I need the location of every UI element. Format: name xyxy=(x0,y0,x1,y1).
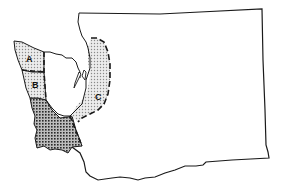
label-b: B xyxy=(32,80,39,90)
island xyxy=(74,72,81,88)
label-a: A xyxy=(26,54,33,64)
island xyxy=(82,70,86,80)
strait-coast xyxy=(44,52,80,78)
washington-map: A B C xyxy=(0,0,288,192)
label-c: C xyxy=(95,92,102,102)
